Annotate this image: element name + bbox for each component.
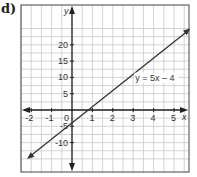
x-tick-label: -2 (25, 113, 33, 123)
line-graph: xy-2-1012345-10-55101520y = 5x – 4 (0, 0, 197, 177)
x-tick-label: 2 (110, 113, 115, 123)
y-tick-label: 10 (58, 72, 68, 82)
y-tick-label: 20 (58, 40, 68, 50)
x-tick-label: 1 (89, 113, 94, 123)
y-tick-label: 15 (58, 56, 68, 66)
y-axis-label: y (63, 6, 69, 16)
x-tick-label: 3 (130, 113, 135, 123)
x-tick-label: 4 (151, 113, 156, 123)
y-axis-arrow-down-icon (69, 163, 75, 171)
y-tick-label: 5 (63, 89, 68, 99)
y-tick-label: -10 (55, 138, 68, 148)
x-axis-label: x (181, 112, 187, 122)
equation-annotation: y = 5x – 4 (135, 73, 174, 83)
y-axis-arrow-up-icon (69, 6, 75, 14)
x-tick-label: -1 (46, 113, 54, 123)
x-tick-label: 5 (171, 113, 176, 123)
